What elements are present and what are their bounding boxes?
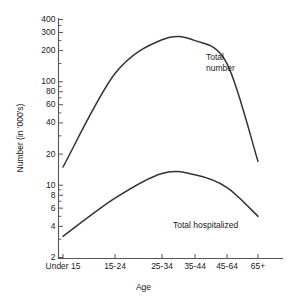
x-tick-label: 15-24 (104, 262, 126, 271)
y-tick-label: 10 (46, 181, 55, 190)
y-axis-title: Number (in '000's) (15, 78, 25, 198)
x-tick-label: 25-34 (151, 262, 173, 271)
series-label-total-number-line1: Total (206, 52, 224, 62)
x-axis-ticks (63, 254, 258, 259)
chart-axes (58, 18, 283, 259)
x-axis-title: Age (0, 282, 287, 292)
y-tick-label: 400 (41, 15, 55, 24)
series-label-total-number: Total number (206, 52, 235, 74)
x-tick-label: 35-44 (184, 262, 206, 271)
x-tick-label: Under 15 (46, 262, 81, 271)
x-tick-label: 45-64 (216, 262, 238, 271)
series-label-total-hospitalized: Total hospitalized (173, 220, 238, 231)
x-tick-label: 65+ (251, 262, 265, 271)
line-chart: 40030020010080604020108642 Under 1515-24… (0, 0, 287, 303)
y-axis-ticks (59, 20, 64, 258)
y-tick-label: 20 (46, 150, 55, 159)
series-label-total-number-line2: number (206, 63, 235, 73)
y-tick-label: 60 (46, 100, 55, 109)
y-tick-label: 200 (41, 46, 55, 55)
y-tick-label: 100 (41, 77, 55, 86)
y-tick-label: 40 (46, 118, 55, 127)
y-tick-label: 8 (51, 191, 56, 200)
y-tick-label: 300 (41, 28, 55, 37)
y-tick-label: 6 (51, 204, 56, 213)
y-tick-label: 4 (51, 222, 56, 231)
y-tick-label: 80 (46, 87, 55, 96)
